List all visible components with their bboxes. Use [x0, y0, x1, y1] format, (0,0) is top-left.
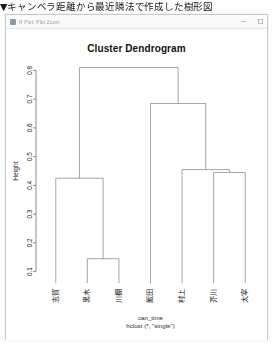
svg-text:黒木: 黒木 — [82, 289, 91, 303]
svg-text:志賀: 志賀 — [51, 289, 60, 303]
dendrogram-svg: 0.10.20.30.40.50.60.70.8 志賀黒木川棚飯田村上芥川太宰 … — [6, 29, 267, 340]
svg-text:0.6: 0.6 — [26, 123, 33, 132]
plot-window: R Plot: Plot Zoom Cluster Dendrogram 0.1… — [5, 14, 268, 340]
plot-canvas: Cluster Dendrogram 0.10.20.30.40.50.60.7… — [6, 29, 267, 340]
page-heading: ▼キャンベラ距離から最近隣法で作成した樹形図 — [0, 0, 274, 14]
svg-text:0.4: 0.4 — [26, 181, 33, 190]
svg-text:0.2: 0.2 — [26, 238, 33, 247]
svg-text:0.3: 0.3 — [26, 209, 33, 218]
y-axis: 0.10.20.30.40.50.60.70.8 — [26, 66, 36, 277]
dendrogram-tree — [56, 68, 245, 284]
plot-window-icon — [10, 19, 16, 25]
svg-text:川棚: 川棚 — [114, 289, 123, 303]
svg-text:太宰: 太宰 — [240, 289, 249, 303]
svg-text:hclust (*, "single"): hclust (*, "single") — [126, 322, 174, 329]
svg-text:0.1: 0.1 — [26, 267, 33, 276]
svg-text:0.5: 0.5 — [26, 152, 33, 161]
svg-text:Height: Height — [12, 161, 20, 181]
window-title-bar[interactable]: R Plot: Plot Zoom — [6, 15, 267, 29]
svg-text:飯田: 飯田 — [145, 289, 154, 303]
window-controls — [239, 15, 265, 28]
svg-text:0.8: 0.8 — [26, 66, 33, 75]
maximize-icon[interactable] — [256, 16, 265, 27]
svg-text:村上: 村上 — [177, 289, 186, 303]
leaf-labels: 志賀黒木川棚飯田村上芥川太宰 — [51, 289, 249, 303]
window-title: R Plot: Plot Zoom — [19, 19, 60, 25]
minimize-icon[interactable] — [239, 16, 248, 27]
svg-text:can_time: can_time — [138, 314, 164, 321]
svg-text:0.7: 0.7 — [26, 94, 33, 103]
svg-text:芥川: 芥川 — [209, 289, 218, 303]
